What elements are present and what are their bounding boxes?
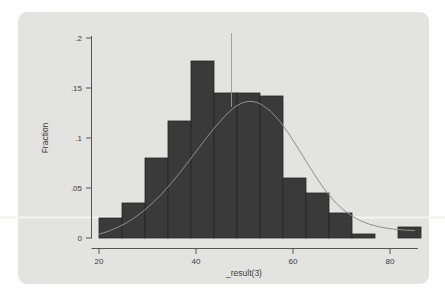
y-tick-label: .05 bbox=[71, 184, 83, 193]
histogram-bar bbox=[122, 203, 145, 238]
histogram-bar bbox=[237, 93, 260, 238]
x-tick-label: 60 bbox=[289, 257, 298, 266]
histogram-bar bbox=[191, 61, 214, 238]
histogram-figure: 0 .05 .1 .15 .2 20 40 60 80 _result(3) F… bbox=[0, 0, 445, 297]
histogram-bar bbox=[145, 158, 168, 238]
histogram-bar bbox=[306, 193, 329, 238]
histogram-bar bbox=[260, 96, 283, 238]
y-axis-tick-labels: 0 .05 .1 .15 .2 bbox=[71, 34, 83, 243]
y-tick-label: .1 bbox=[75, 134, 82, 143]
histogram-bars bbox=[99, 61, 421, 238]
histogram-bar bbox=[168, 121, 191, 238]
y-tick-label: .2 bbox=[75, 34, 82, 43]
y-tick-label: 0 bbox=[78, 234, 83, 243]
y-axis-ticks bbox=[86, 38, 92, 238]
x-tick-label: 20 bbox=[95, 257, 104, 266]
histogram-bar bbox=[398, 227, 421, 238]
histogram-chart: 0 .05 .1 .15 .2 20 40 60 80 _result(3) F… bbox=[0, 0, 445, 297]
x-tick-label: 40 bbox=[192, 257, 201, 266]
histogram-bar bbox=[329, 213, 352, 238]
y-axis-title: Fraction bbox=[40, 122, 50, 153]
histogram-bar bbox=[283, 178, 306, 238]
y-tick-label: .15 bbox=[71, 84, 83, 93]
x-tick-label: 80 bbox=[386, 257, 395, 266]
x-axis-title: _result(3) bbox=[225, 268, 262, 278]
x-axis-tick-labels: 20 40 60 80 bbox=[95, 257, 395, 266]
histogram-bar bbox=[352, 234, 375, 238]
x-axis-ticks bbox=[99, 249, 390, 255]
histogram-bar bbox=[99, 218, 122, 238]
